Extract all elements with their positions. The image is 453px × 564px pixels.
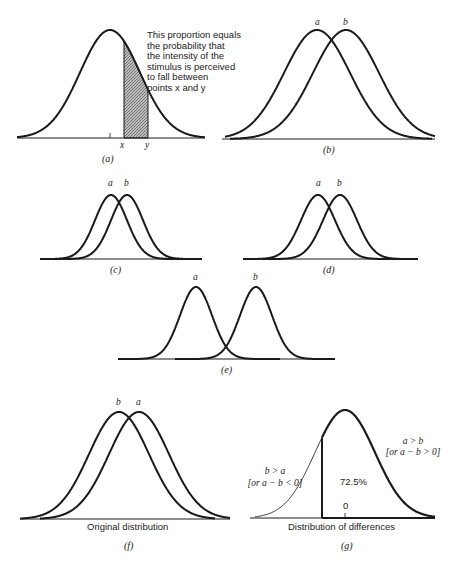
zero-tick-label: 0: [343, 500, 348, 511]
curve-a-label: a: [193, 272, 198, 282]
curve-b-label: b: [116, 397, 121, 407]
annotation-line: points x and y: [147, 83, 241, 94]
point-x-label: x: [120, 140, 124, 150]
axis-label-differences: Distribution of differences: [288, 521, 395, 532]
annotation-line: to fall between: [147, 72, 241, 83]
a-minus-b-negative-label: [or a − b < 0]: [236, 478, 314, 488]
curve-b-label: b: [124, 178, 129, 188]
percent-label: 72.5%: [340, 476, 367, 487]
panel-c-caption: (c): [110, 264, 121, 275]
curve-b-label: b: [343, 17, 348, 27]
axis-label-original: Original distribution: [87, 521, 168, 532]
panel-d-caption: (d): [323, 264, 335, 275]
annotation-line: the intensity of the: [147, 51, 241, 62]
curve-a-label: a: [136, 397, 141, 407]
annotation-line: This proportion equals: [147, 30, 241, 41]
panel-e-caption: (e): [221, 364, 232, 375]
curve-b-label: b: [253, 272, 258, 282]
curve-a-label: a: [108, 178, 113, 188]
panel-a-caption: (a): [102, 153, 114, 164]
curve-a-label: a: [315, 17, 320, 27]
panel-f-caption: (f): [124, 540, 133, 551]
curve-b-label: b: [337, 178, 342, 188]
curve-a-label: a: [316, 178, 321, 188]
panel-b-caption: (b): [323, 144, 335, 155]
b-greater-a-label: b > a: [250, 466, 300, 476]
a-greater-b-label: a > b: [388, 436, 438, 446]
point-y-label: y: [145, 140, 149, 150]
a-minus-b-positive-label: [or a − b > 0]: [373, 447, 453, 457]
panel-g-caption: (g): [341, 540, 353, 551]
panel-a-annotation: This proportion equals the probability t…: [147, 30, 241, 93]
